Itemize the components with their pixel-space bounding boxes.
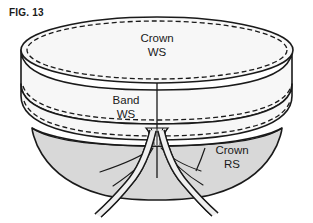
crown-ws-label-line1: Crown [140, 32, 173, 44]
sewing-diagram-svg: Crown WS Band WS Crown RS [0, 0, 313, 223]
crown-rs-label-line2: RS [224, 158, 240, 170]
band-ws-label-line1: Band [113, 94, 140, 106]
figure-13-illustration: FIG. 13 [0, 0, 313, 223]
crown-ws-label-line2: WS [148, 46, 167, 58]
band-ws-label-line2: WS [117, 108, 136, 120]
crown-rs-label-line1: Crown [215, 144, 248, 156]
